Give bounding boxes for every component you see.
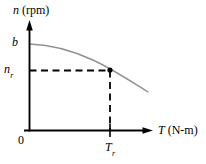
rated-torque-label: Tr (105, 141, 115, 156)
rated-torque-subscript: r (112, 149, 115, 158)
no-load-speed-label: b (12, 36, 18, 48)
speed-torque-characteristic-figure: n (rpm) T (N-m) b nr Tr 0 (0, 0, 206, 164)
y-axis-arrowhead (26, 20, 33, 31)
rated-speed-subscript: r (10, 71, 13, 80)
rated-operating-point-marker (107, 67, 112, 72)
rated-speed-label: nr (4, 63, 13, 78)
x-axis-units: (N-m) (165, 123, 198, 137)
y-axis-units: (rpm) (19, 3, 49, 17)
x-axis-label: T (N-m) (158, 124, 198, 136)
rated-torque-symbol: T (105, 140, 112, 154)
origin-value: 0 (18, 133, 24, 147)
x-axis-symbol: T (158, 123, 165, 137)
no-load-speed-symbol: b (12, 35, 18, 49)
plot-canvas (0, 0, 206, 164)
origin-label: 0 (18, 134, 24, 146)
speed-torque-curve (30, 44, 149, 92)
y-axis-label: n (rpm) (13, 4, 49, 16)
x-axis-arrowhead (143, 127, 154, 134)
